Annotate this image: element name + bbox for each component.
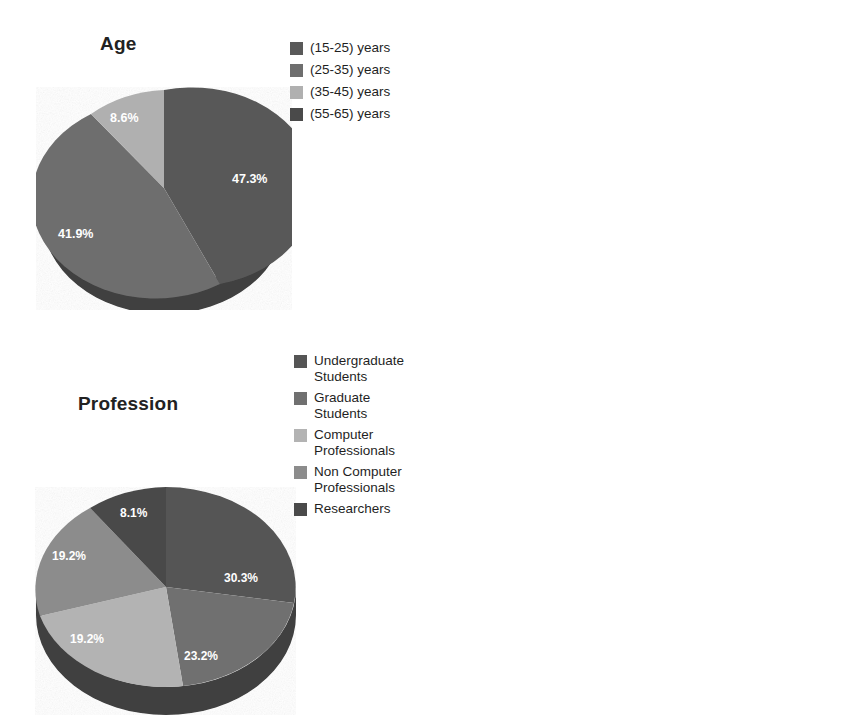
pie-profession-slice-2 [166, 587, 294, 686]
legend-swatch-icon [290, 108, 303, 121]
chart-panel-profession: Profession [0, 340, 428, 716]
legend-swatch-icon [294, 429, 307, 442]
legend-item[interactable]: (55-65) years [290, 106, 390, 122]
legend-label: (25-35) years [310, 62, 390, 78]
legend-profession: Undergraduate Students Graduate Students… [294, 353, 404, 522]
legend-item[interactable]: Computer Professionals [294, 427, 404, 459]
legend-label: Graduate Students [314, 390, 370, 422]
legend-swatch-icon [294, 466, 307, 479]
legend-item[interactable]: Undergraduate Students [294, 353, 404, 385]
pie-age-label-2: 41.9% [58, 227, 93, 241]
pie-age-svg: 47.3% 41.9% 8.6% [36, 78, 292, 310]
chart-panel-gender: Gender 61.6% 38.4% Males [428, 0, 856, 358]
pie-profession-slice-1 [166, 487, 296, 603]
legend-swatch-icon [294, 503, 307, 516]
pie-profession-label-4: 19.2% [52, 549, 86, 563]
legend-item[interactable]: Researchers [294, 501, 404, 517]
chart-title-profession: Profession [78, 393, 178, 415]
chart-title-age: Age [100, 33, 137, 55]
legend-item[interactable]: (35-45) years [290, 84, 390, 100]
pie-profession-label-3: 19.2% [70, 632, 104, 646]
legend-label: Computer Professionals [314, 427, 395, 459]
legend-swatch-icon [294, 355, 307, 368]
chart-panel-age: Age 47.3% 41.9% 8.6% [0, 0, 428, 358]
legend-swatch-icon [294, 392, 307, 405]
pie-profession-svg: 30.3% 23.2% 19.2% 19.2% 8.1% [28, 475, 304, 715]
pie-profession-label-2: 23.2% [184, 649, 218, 663]
pie-chart-age: 47.3% 41.9% 8.6% [36, 78, 292, 310]
legend-item[interactable]: Graduate Students [294, 390, 404, 422]
legend-label: Non Computer Professionals [314, 464, 402, 496]
legend-label: Undergraduate Students [314, 353, 404, 385]
legend-item[interactable]: (15-25) years [290, 40, 390, 56]
legend-swatch-icon [290, 86, 303, 99]
legend-label: (15-25) years [310, 40, 390, 56]
legend-age: (15-25) years (25-35) years (35-45) year… [290, 40, 390, 128]
pie-age-label-1: 47.3% [232, 172, 267, 186]
pie-profession-label-5: 8.1% [120, 506, 148, 520]
pie-age-label-3: 8.6% [110, 111, 139, 125]
legend-label: Researchers [314, 501, 391, 517]
legend-label: (35-45) years [310, 84, 390, 100]
legend-item[interactable]: Non Computer Professionals [294, 464, 404, 496]
chart-panel-nationality: Nationality [428, 340, 856, 716]
legend-label: (55-65) years [310, 106, 390, 122]
pie-chart-profession: 30.3% 23.2% 19.2% 19.2% 8.1% [28, 475, 304, 715]
pie-profession-label-1: 30.3% [224, 571, 258, 585]
legend-swatch-icon [290, 42, 303, 55]
legend-item[interactable]: (25-35) years [290, 62, 390, 78]
legend-swatch-icon [290, 64, 303, 77]
